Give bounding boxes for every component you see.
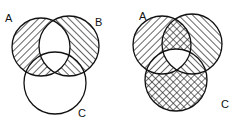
label-a: A — [139, 10, 147, 22]
label-a: A — [5, 12, 13, 24]
right-venn: A C — [133, 10, 229, 111]
label-b: B — [95, 16, 102, 28]
left-venn: A B C — [5, 12, 102, 119]
venn-diagrams: A B C A C — [0, 0, 233, 129]
label-c: C — [78, 107, 86, 119]
label-c: C — [221, 98, 229, 110]
